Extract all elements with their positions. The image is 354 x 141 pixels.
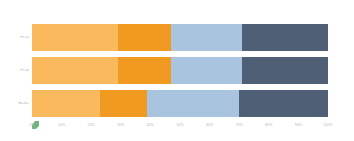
x-axis-tick-label-1: 10%: [58, 124, 65, 127]
bar-segment-1-row-0[interactable]: [32, 24, 118, 51]
x-axis-tick-label-6: 60%: [206, 124, 213, 127]
x-axis-tick-label-4: 40%: [147, 124, 154, 127]
bar-segment-1-row-2[interactable]: [32, 90, 100, 117]
bar-segment-3-row-2[interactable]: [147, 90, 239, 117]
x-axis-tick-label-5: 50%: [176, 124, 183, 127]
x-axis-tick-label-8: 80%: [265, 124, 272, 127]
bar-segment-3-row-0[interactable]: [171, 24, 242, 51]
y-axis-label-row-2: MCSC: [2, 102, 29, 105]
x-axis-tick-label-3: 30%: [117, 124, 124, 127]
y-axis-label-row-1: FY24: [2, 69, 29, 72]
table-row[interactable]: [32, 24, 328, 51]
stacked-bar-chart: FY23 FY24 MCSC 0%10%20%30%40%50%60%70%80…: [0, 0, 354, 141]
table-row[interactable]: [32, 57, 328, 84]
bar-segment-4-row-2[interactable]: [239, 90, 328, 117]
x-axis-tick-label-9: 90%: [295, 124, 302, 127]
bar-segment-4-row-0[interactable]: [242, 24, 328, 51]
x-axis-tick-label-10: 100%: [323, 124, 332, 127]
bar-segment-2-row-0[interactable]: [118, 24, 171, 51]
x-axis-tick-label-7: 70%: [236, 124, 243, 127]
x-axis: 0%10%20%30%40%50%60%70%80%90%100%: [32, 124, 328, 134]
bar-segment-1-row-1[interactable]: [32, 57, 118, 84]
table-row[interactable]: [32, 90, 328, 117]
bar-segment-3-row-1[interactable]: [171, 57, 242, 84]
bar-segment-2-row-2[interactable]: [100, 90, 147, 117]
x-axis-tick-label-0: 0%: [29, 124, 34, 127]
y-axis-label-row-0: FY23: [2, 36, 29, 39]
bar-segment-2-row-1[interactable]: [118, 57, 171, 84]
bar-segment-4-row-1[interactable]: [242, 57, 328, 84]
plot-area: [32, 22, 328, 122]
x-axis-tick-label-2: 20%: [88, 124, 95, 127]
